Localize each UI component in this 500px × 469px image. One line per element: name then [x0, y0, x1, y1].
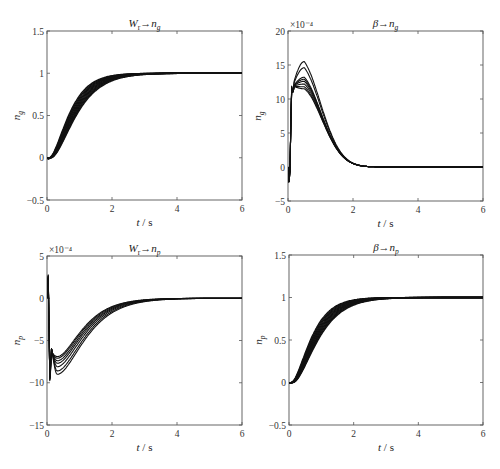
x-tick-label: 0 [45, 429, 50, 439]
y-tick-label: −5 [275, 197, 285, 207]
y-tick-label: −0.5 [27, 196, 44, 206]
data-line [288, 86, 483, 182]
chart-title: β→np [372, 241, 399, 256]
y-tick-label: 1 [281, 293, 286, 303]
x-tick-label: 4 [175, 204, 180, 214]
y-axis-label: ng [10, 111, 25, 121]
data-line [47, 276, 242, 380]
x-tick-label: 4 [416, 429, 421, 439]
chart-title: β→ng [372, 17, 399, 32]
series-group [289, 298, 483, 384]
y-tick-label: 1 [39, 69, 44, 79]
scale-note: ×10⁻⁴ [290, 20, 314, 30]
data-line [47, 277, 242, 378]
x-tick-label: 4 [416, 205, 421, 215]
y-tick-label: −15 [29, 421, 44, 431]
x-axis-label: t / s [378, 217, 394, 229]
data-line [288, 68, 483, 182]
x-tick-label: 0 [45, 204, 50, 214]
chart-top-left: 0246−0.500.511.5Wr→ngt / sng [10, 17, 245, 228]
y-tick-label: −0.5 [269, 421, 286, 431]
y-tick-label: 0.5 [32, 111, 44, 121]
y-tick-label: 15 [276, 61, 286, 71]
series-group [47, 275, 242, 381]
y-tick-label: 10 [276, 95, 286, 105]
data-line [289, 298, 483, 384]
series-group [288, 62, 483, 182]
data-line [47, 279, 242, 377]
chart-title: Wr→ng [129, 17, 161, 32]
chart-title: Wr→np [129, 242, 161, 257]
scale-note: ×10⁻⁴ [49, 245, 73, 255]
data-line [47, 275, 242, 381]
axes-box [288, 31, 483, 201]
x-tick-label: 0 [286, 205, 291, 215]
y-tick-label: 0 [39, 294, 44, 304]
x-axis-label: t / s [137, 216, 153, 228]
y-tick-label: 5 [280, 129, 285, 139]
chart-top-right: 0246−505101520×10⁻⁴β→ngt / sng [251, 17, 486, 229]
y-tick-label: 0 [39, 153, 44, 163]
x-tick-label: 6 [240, 429, 245, 439]
x-tick-label: 6 [481, 205, 486, 215]
data-line [288, 62, 483, 182]
figure: 0246−0.500.511.5Wr→ngt / sng0246−5051015… [0, 0, 500, 469]
y-axis-label: np [10, 336, 25, 346]
y-tick-label: −10 [29, 378, 44, 388]
data-line [47, 280, 242, 376]
data-line [47, 276, 242, 379]
y-tick-label: −5 [34, 336, 44, 346]
series-group [47, 73, 242, 158]
data-line [288, 79, 483, 182]
y-axis-label: ng [251, 111, 266, 121]
x-tick-label: 2 [351, 429, 356, 439]
x-tick-label: 2 [351, 205, 356, 215]
data-line [47, 73, 242, 158]
y-tick-label: 1.5 [32, 27, 44, 37]
x-axis-label: t / s [378, 441, 394, 453]
x-tick-label: 6 [481, 429, 486, 439]
x-axis-label: t / s [137, 441, 153, 453]
x-tick-label: 6 [240, 204, 245, 214]
chart-bottom-right: 0246−0.500.511.5β→npt / snp [252, 241, 486, 453]
y-axis-label: np [252, 335, 267, 345]
x-tick-label: 0 [287, 429, 292, 439]
y-tick-label: 0 [280, 163, 285, 173]
y-tick-label: 0 [281, 378, 286, 388]
x-tick-label: 2 [110, 429, 115, 439]
chart-bottom-left: 0246−15−10−505×10⁻⁴Wr→npt / snp [10, 242, 245, 453]
x-tick-label: 2 [110, 204, 115, 214]
y-tick-label: 0.5 [274, 336, 286, 346]
y-tick-label: 5 [39, 252, 44, 262]
data-line [47, 278, 242, 377]
y-tick-label: 1.5 [274, 251, 286, 261]
x-tick-label: 4 [175, 429, 180, 439]
y-tick-label: 20 [276, 27, 286, 37]
